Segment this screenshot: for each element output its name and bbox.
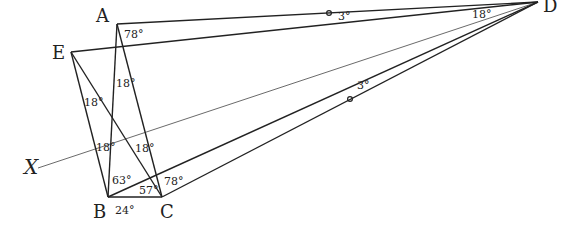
angle-label: 18° [116, 77, 136, 90]
segment-CD [162, 2, 538, 197]
angle-label: 63° [112, 174, 132, 187]
point-label-c: C [160, 201, 174, 222]
segment-ED [71, 2, 538, 52]
angle-label: 18° [96, 141, 116, 154]
geometry-diagram: 78°18°18°18°18°63°57°78°24°3°18°3° AEBCD… [0, 0, 576, 233]
angle-label: 24° [115, 204, 135, 217]
angle-label: 18° [135, 142, 155, 155]
point-label-e: E [52, 42, 65, 63]
segment-AC [117, 24, 162, 197]
segment-BD [108, 2, 538, 197]
point-label-d: D [543, 0, 557, 16]
point-label-x: X [22, 155, 39, 179]
point-label-a: A [95, 5, 110, 26]
angle-label: 3° [338, 10, 351, 23]
segment-AB [108, 24, 117, 197]
angle-label: 78° [164, 175, 184, 188]
angle-label: 18° [472, 8, 492, 21]
point-label-b: B [93, 201, 106, 222]
angle-label: 3° [357, 79, 370, 92]
angle-label: 18° [84, 96, 104, 109]
segment-EB [71, 52, 108, 197]
angle-labels: 78°18°18°18°18°63°57°78°24°3°18°3° [84, 8, 492, 217]
angle-label: 57° [139, 184, 159, 197]
angle-label: 78° [124, 28, 144, 41]
